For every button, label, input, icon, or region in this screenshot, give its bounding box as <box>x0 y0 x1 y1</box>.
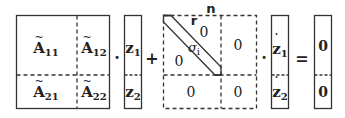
block-22-zero: 0 <box>234 85 243 99</box>
lower-zero: 0 <box>175 54 184 68</box>
entry-z1: z1 <box>125 41 141 58</box>
block-a12-base: A <box>81 41 93 56</box>
upper-zero: 0 <box>200 25 209 39</box>
entry-z2: z2 <box>125 85 141 102</box>
dimension-label-n: n <box>206 2 215 15</box>
block-a11: A11 <box>33 41 59 58</box>
block-12-zero: 0 <box>234 38 243 52</box>
entry-zdot2-base: z <box>272 85 281 100</box>
entry-zdot2-sub: 2 <box>281 91 288 102</box>
sigma-sub: i <box>197 46 200 57</box>
sigma-base: σ <box>188 40 197 55</box>
entry-z1-sub: 1 <box>134 47 141 58</box>
block-a22-base: A <box>81 85 93 100</box>
entry-zdot1: z1 <box>272 42 288 59</box>
entry-zdot1-sub: 1 <box>281 48 288 59</box>
block-a21-sub: 21 <box>45 91 59 102</box>
entry-z2-base: z <box>125 83 134 101</box>
block-a21: A21 <box>33 85 59 102</box>
result-entry-1: 0 <box>318 39 328 53</box>
plus-operator: + <box>145 51 158 67</box>
block-a11-base: A <box>33 41 45 56</box>
block-21-zero: 0 <box>187 85 196 99</box>
matrix-equation-diagram: A11 A12 A21 A22 · z1 z2 + n r 0 σi 0 0 0… <box>0 0 345 118</box>
entry-z1-base: z <box>125 39 134 57</box>
block-a22-sub: 22 <box>93 91 107 102</box>
diagonal-label-sigma: σi <box>188 40 200 57</box>
equals-operator: = <box>295 51 308 67</box>
entry-z2-sub: 2 <box>134 91 141 102</box>
multiply-operator-1: · <box>114 50 120 66</box>
block-a22: A22 <box>81 85 107 102</box>
multiply-operator-2: · <box>261 50 267 66</box>
block-a11-sub: 11 <box>45 47 59 58</box>
result-entry-2: 0 <box>318 85 328 99</box>
entry-zdot2: z2 <box>272 85 288 102</box>
block-a12: A12 <box>81 41 107 58</box>
block-a12-sub: 12 <box>93 47 107 58</box>
dimension-label-r: r <box>191 14 197 27</box>
block-a21-base: A <box>33 85 45 100</box>
entry-zdot1-base: z <box>272 42 281 57</box>
